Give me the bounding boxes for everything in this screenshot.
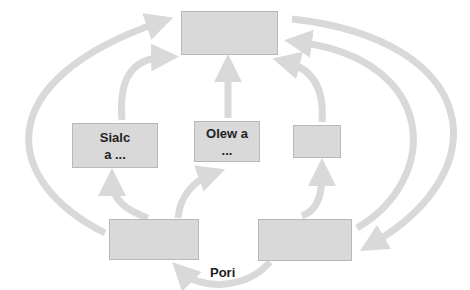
arrow-bottomleft-to-leftmiddle [112,182,148,218]
node-right-middle [293,125,341,158]
node-left-middle-line2: a ... [104,146,126,163]
arrow-bottomright-to-rightmiddle [302,172,322,216]
arrow-rightmiddle-to-top [286,62,322,122]
node-bottom-right [258,219,352,261]
edge-label-bottom: Pori [210,265,235,280]
node-top [181,11,278,55]
node-center-middle-line2: ... [222,142,233,159]
node-left-middle-line1: Sialc [100,129,130,146]
node-left-middle: Sialc a ... [72,123,158,168]
arrow-leftmiddle-to-top [121,57,165,120]
node-center-middle: Olew a ... [194,121,260,162]
arrow-bottomleft-to-center [178,174,212,218]
node-center-middle-line1: Olew a [206,125,248,142]
node-bottom-left [109,219,199,260]
